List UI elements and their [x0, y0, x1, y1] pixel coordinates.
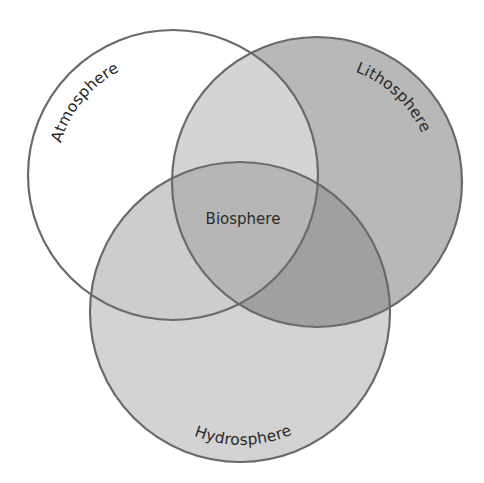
biosphere-label: Biosphere	[206, 210, 281, 228]
venn-diagram: Atmosphere Lithosphere Hydrosphere Biosp…	[0, 0, 484, 483]
